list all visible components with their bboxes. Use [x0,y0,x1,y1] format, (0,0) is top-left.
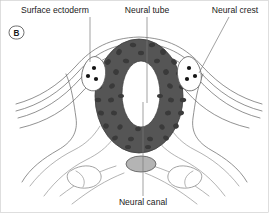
label-neural-tube: Neural tube [125,5,170,15]
neural-crest-left [82,57,106,91]
neural-canal-lumen [122,61,160,127]
leader-neural-crest [199,17,229,73]
dorsal-aorta-right [168,166,202,188]
neural-tube-structure [95,39,187,153]
label-neural-crest: Neural crest [212,5,259,15]
dorsal-aorta-left [67,166,101,188]
panel-letter: B [14,29,20,38]
figure-panel: Surface ectoderm Neural tube Neural cres… [0,0,269,213]
notochord [126,156,156,172]
label-surface-ectoderm: Surface ectoderm [21,5,89,15]
panel-letter-badge: B [9,26,24,39]
label-neural-canal: Neural canal [119,197,167,207]
